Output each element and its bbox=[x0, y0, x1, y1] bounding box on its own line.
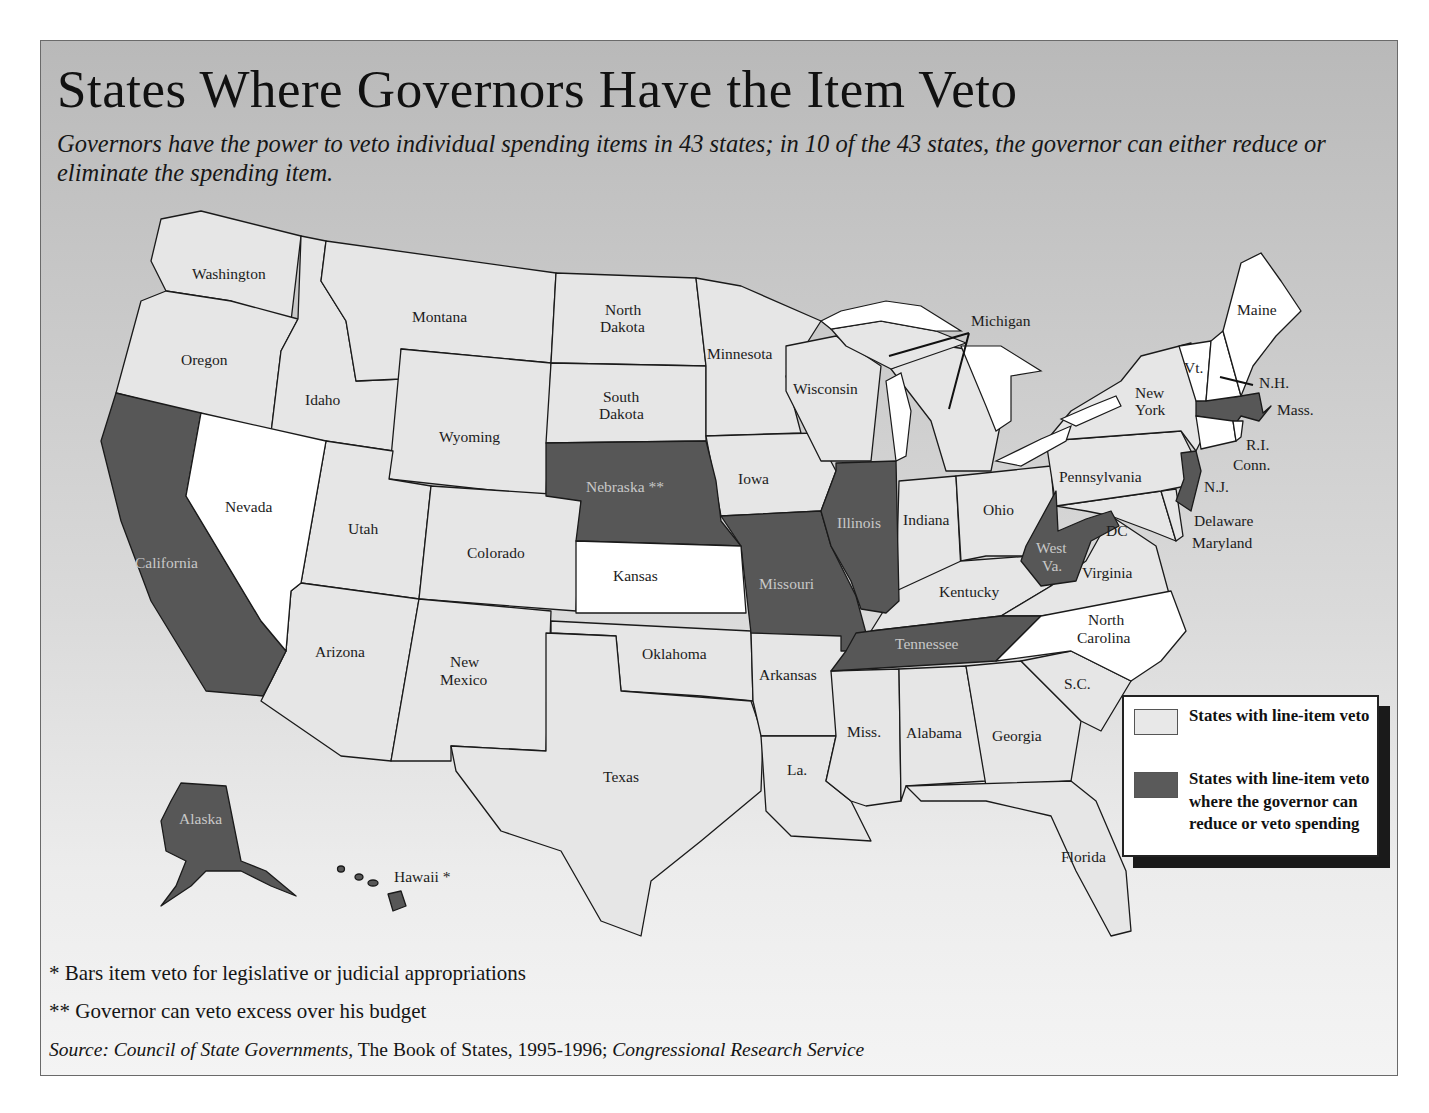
label-north-carolina-1: North bbox=[1088, 611, 1124, 628]
label-north-carolina-2: Carolina bbox=[1077, 629, 1130, 646]
source-line: Source: Council of State Governments, Th… bbox=[49, 1039, 864, 1061]
label-florida: Florida bbox=[1061, 848, 1106, 865]
label-north-dakota-1: North bbox=[605, 301, 641, 318]
map-figure: States Where Governors Have the Item Vet… bbox=[40, 40, 1398, 1076]
label-ohio: Ohio bbox=[983, 501, 1014, 518]
label-new-mexico-1: New bbox=[450, 653, 480, 670]
source-book: The Book of States, 1995-1996; bbox=[353, 1039, 612, 1060]
state-kansas bbox=[576, 541, 746, 613]
label-wisconsin: Wisconsin bbox=[793, 380, 858, 397]
footnote-single-star: * Bars item veto for legislative or judi… bbox=[49, 961, 526, 986]
label-california: California bbox=[135, 554, 198, 571]
label-connecticut: Conn. bbox=[1233, 456, 1270, 473]
label-north-dakota-2: Dakota bbox=[600, 318, 645, 335]
label-hawaii: Hawaii * bbox=[394, 868, 451, 885]
label-illinois: Illinois bbox=[837, 514, 881, 531]
label-washington: Washington bbox=[192, 265, 266, 282]
label-massachusetts: Mass. bbox=[1277, 401, 1314, 418]
label-iowa: Iowa bbox=[738, 470, 769, 487]
legend-item-line-item-veto: States with line-item veto bbox=[1134, 705, 1381, 735]
label-utah: Utah bbox=[348, 520, 378, 537]
label-delaware: Delaware bbox=[1194, 512, 1253, 529]
footnote-double-star: ** Governor can veto excess over his bud… bbox=[49, 999, 426, 1024]
label-mississippi: Miss. bbox=[847, 723, 881, 740]
legend-swatch-dark bbox=[1134, 772, 1178, 798]
label-nebraska: Nebraska ** bbox=[586, 478, 664, 495]
label-georgia: Georgia bbox=[992, 727, 1042, 744]
legend-swatch-light bbox=[1134, 709, 1178, 735]
label-wyoming: Wyoming bbox=[439, 428, 500, 445]
label-michigan: Michigan bbox=[971, 312, 1031, 329]
state-hawaii-maui bbox=[368, 880, 378, 886]
source-suffix: Congressional Research Service bbox=[612, 1039, 864, 1060]
state-connecticut bbox=[1196, 416, 1236, 449]
label-new-jersey: N.J. bbox=[1204, 478, 1229, 495]
label-montana: Montana bbox=[412, 308, 467, 325]
label-texas: Texas bbox=[603, 768, 639, 785]
legend-label: States with line-item veto where the gov… bbox=[1189, 768, 1381, 836]
label-west-virginia-2: Va. bbox=[1042, 557, 1062, 574]
label-south-dakota-1: South bbox=[603, 388, 639, 405]
label-dc: DC bbox=[1106, 522, 1128, 539]
label-oklahoma: Oklahoma bbox=[642, 645, 707, 662]
label-new-hampshire: N.H. bbox=[1259, 374, 1289, 391]
label-alaska: Alaska bbox=[179, 810, 222, 827]
label-rhode-island: R.I. bbox=[1246, 436, 1269, 453]
legend: States with line-item veto States with l… bbox=[1122, 695, 1379, 857]
label-minnesota: Minnesota bbox=[707, 345, 773, 362]
label-arizona: Arizona bbox=[315, 643, 365, 660]
label-kentucky: Kentucky bbox=[939, 583, 1000, 600]
label-oregon: Oregon bbox=[181, 351, 228, 368]
label-maine: Maine bbox=[1237, 301, 1277, 318]
label-new-mexico-2: Mexico bbox=[440, 671, 488, 688]
label-nevada: Nevada bbox=[225, 498, 272, 515]
state-hawaii-big bbox=[388, 891, 406, 911]
label-colorado: Colorado bbox=[467, 544, 525, 561]
state-alaska bbox=[161, 783, 296, 906]
label-south-carolina: S.C. bbox=[1064, 675, 1091, 692]
label-arkansas: Arkansas bbox=[759, 666, 817, 683]
label-indiana: Indiana bbox=[903, 511, 950, 528]
label-new-york-2: York bbox=[1135, 401, 1166, 418]
state-hawaii-oahu bbox=[355, 874, 363, 880]
source-prefix: Source: Council of State Governments, bbox=[49, 1039, 353, 1060]
label-virginia: Virginia bbox=[1082, 564, 1133, 581]
label-south-dakota-2: Dakota bbox=[599, 405, 644, 422]
label-tennessee: Tennessee bbox=[895, 635, 959, 652]
legend-label: States with line-item veto bbox=[1189, 705, 1381, 728]
state-wyoming bbox=[389, 349, 551, 496]
label-pennsylvania: Pennsylvania bbox=[1059, 468, 1142, 485]
us-map: Washington Oregon California Nevada Idah… bbox=[41, 41, 1398, 1076]
label-louisiana: La. bbox=[787, 761, 807, 778]
state-hawaii-kauai bbox=[338, 866, 345, 872]
label-maryland: Maryland bbox=[1192, 534, 1253, 551]
label-alabama: Alabama bbox=[906, 724, 962, 741]
legend-item-reduce-or-veto: States with line-item veto where the gov… bbox=[1134, 768, 1381, 836]
label-kansas: Kansas bbox=[613, 567, 658, 584]
label-idaho: Idaho bbox=[305, 391, 341, 408]
label-west-virginia-1: West bbox=[1036, 539, 1067, 556]
label-vermont: Vt. bbox=[1184, 359, 1203, 376]
label-missouri: Missouri bbox=[759, 575, 815, 592]
label-new-york-1: New bbox=[1135, 384, 1165, 401]
